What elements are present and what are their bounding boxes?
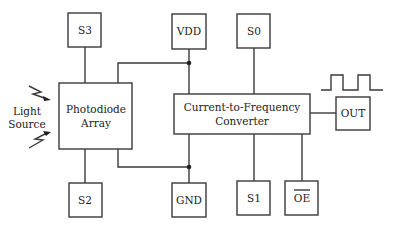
pin-oe-label: OE — [294, 192, 310, 204]
pin-s2: S2 — [69, 183, 102, 217]
pin-s1: S1 — [237, 181, 270, 215]
light-source-label-line2: Source — [8, 118, 45, 130]
photodiode-array-block: Photodiode Array — [59, 83, 132, 149]
pin-s2-label: S2 — [78, 194, 92, 206]
light-source-label-line1: Light — [13, 105, 42, 117]
converter-label-line1: Current-to-Frequency — [184, 101, 301, 113]
gnd-junction-dot — [187, 165, 192, 170]
light-arrow-top-icon — [29, 86, 51, 101]
pin-out-label: OUT — [341, 107, 365, 119]
pin-gnd: GND — [172, 183, 206, 217]
converter-label-line2: Converter — [215, 115, 270, 127]
vdd-junction-dot — [187, 61, 192, 66]
pin-vdd-label: VDD — [176, 25, 201, 37]
pd-vdd-wire — [118, 63, 189, 83]
light-arrow-bottom-icon — [29, 131, 51, 148]
pin-s0: S0 — [237, 14, 270, 48]
photodiode-label-line1: Photodiode — [66, 103, 126, 115]
pin-vdd: VDD — [172, 14, 206, 49]
pin-s1-label: S1 — [247, 192, 261, 204]
pin-oe: OE — [285, 181, 318, 215]
pin-s3: S3 — [68, 13, 101, 47]
pin-s3-label: S3 — [78, 24, 92, 36]
pin-s0-label: S0 — [247, 25, 261, 37]
converter-block: Current-to-Frequency Converter — [174, 94, 310, 134]
pd-gnd-wire — [118, 149, 189, 167]
square-wave-icon — [321, 75, 383, 90]
block-diagram: S3 VDD S0 Photodiode Array Current-to-Fr… — [0, 0, 396, 229]
pin-out: OUT — [336, 97, 370, 130]
photodiode-label-line2: Array — [80, 117, 111, 129]
pin-gnd-label: GND — [176, 194, 202, 206]
